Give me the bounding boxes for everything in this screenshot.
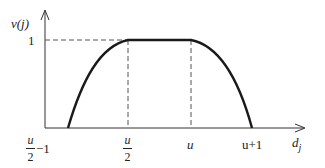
- x-tick-u-half: u 2: [123, 134, 132, 163]
- x-tick-u-plus-1: u+1: [242, 138, 262, 151]
- x-axis-label: dj: [292, 136, 301, 153]
- x-tick-u-half-minus-1: u 2 −1: [26, 134, 50, 163]
- x-tick-u: u: [187, 138, 194, 151]
- y-axis-label: v(j): [11, 17, 29, 30]
- y-tick-1: 1: [28, 34, 35, 47]
- membership-curve: [68, 40, 252, 128]
